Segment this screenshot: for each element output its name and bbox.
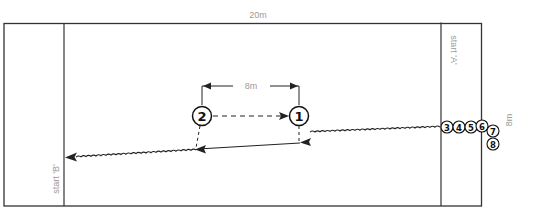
player-5-label: 5 — [468, 123, 474, 133]
player-5: 5 — [465, 121, 477, 133]
arrowhead — [300, 138, 311, 146]
field-height-label: 8m — [504, 114, 514, 127]
distance-label: 8m — [245, 81, 258, 91]
player-1: 1 — [290, 107, 309, 126]
player-8-label: 8 — [490, 140, 496, 150]
run-arrow — [198, 143, 300, 149]
player-2-label: 2 — [197, 109, 206, 124]
player-3: 3 — [441, 121, 453, 133]
drill-diagram: 20m 8m start 'A' start 'B' 8m — [0, 0, 544, 219]
field-outline — [4, 24, 482, 207]
player-3-label: 3 — [444, 123, 450, 133]
dribble-arrow-b — [76, 149, 196, 157]
player-4-label: 4 — [456, 123, 462, 133]
player-7: 7 — [487, 125, 499, 137]
start-a-label: start 'A' — [449, 35, 459, 65]
field-width-label: 20m — [249, 10, 267, 20]
player-2-drop-line — [196, 126, 200, 148]
player-6-label: 6 — [479, 122, 485, 132]
player-4: 4 — [453, 121, 465, 133]
distance-dimension: 8m — [202, 81, 299, 105]
player-6: 6 — [476, 120, 488, 132]
player-1-label: 1 — [294, 109, 303, 124]
player-8: 8 — [487, 138, 499, 150]
player-2: 2 — [193, 107, 212, 126]
start-b-label: start 'B' — [51, 164, 61, 194]
dribble-arrow-a — [310, 126, 440, 132]
field — [4, 23, 482, 207]
arrowhead — [65, 153, 77, 162]
player-7-label: 7 — [490, 127, 496, 137]
field-svg: 20m 8m start 'A' start 'B' 8m — [0, 0, 544, 219]
